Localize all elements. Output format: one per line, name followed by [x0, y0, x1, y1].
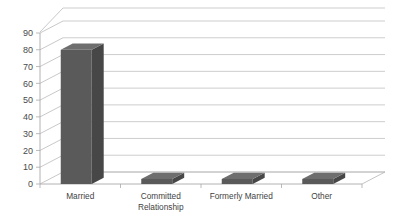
bar-front-face — [141, 179, 172, 184]
x-axis-category-label: Other — [311, 191, 332, 201]
bar-front-face — [302, 179, 333, 184]
chart-canvas: 0102030405060708090 MarriedCommittedRela… — [0, 0, 397, 223]
x-axis-category-label: Formerly Married — [210, 191, 274, 201]
bar-front-face — [61, 50, 92, 184]
y-axis-tick-label: 80 — [23, 45, 33, 55]
gridline-depth-connector — [40, 138, 63, 150]
bar-side-face — [92, 44, 104, 184]
y-axis-tick-label: 60 — [23, 79, 33, 89]
x-axis-category-label: Committed — [141, 191, 181, 201]
gridline-depth-connector — [40, 105, 63, 117]
x-axis-category-label: Relationship — [138, 202, 184, 212]
gridline-depth-connector — [40, 172, 63, 184]
y-axis-tick-label: 50 — [23, 95, 33, 105]
bar-chart-figure: 0102030405060708090 MarriedCommittedRela… — [0, 0, 397, 223]
gridline-depth-connector — [40, 122, 63, 134]
y-axis-tick-label: 70 — [23, 62, 33, 72]
y-axis-tick-label: 20 — [23, 146, 33, 156]
x-axis-tick-marks — [40, 184, 362, 188]
gridline-depth-connector — [40, 38, 63, 50]
y-axis-tick-label: 10 — [23, 162, 33, 172]
bar-front-face — [222, 179, 253, 184]
y-axis-tick-labels: 0102030405060708090 — [23, 28, 33, 189]
bar-column — [302, 173, 345, 184]
y-axis-tick-label: 90 — [23, 28, 33, 38]
y-axis-tick-label: 0 — [28, 179, 33, 189]
bar-column — [61, 44, 104, 184]
gridline-depth-connector — [40, 55, 63, 67]
gridline-depth-connector — [40, 155, 63, 167]
bar-column — [222, 173, 265, 184]
floor-right-edge — [362, 172, 385, 184]
bars-group — [61, 44, 345, 184]
gridline-depth-connector — [40, 21, 63, 33]
x-axis-category-label: Married — [66, 191, 95, 201]
bar-column — [141, 173, 184, 184]
gridline-depth-connector — [40, 71, 63, 83]
plot-area-top-depth-edge — [40, 8, 63, 32]
y-axis-tick-label: 40 — [23, 112, 33, 122]
gridline-depth-connector — [40, 88, 63, 100]
x-axis-category-labels: MarriedCommittedRelationshipFormerly Mar… — [66, 191, 332, 212]
y-axis-tick-label: 30 — [23, 129, 33, 139]
